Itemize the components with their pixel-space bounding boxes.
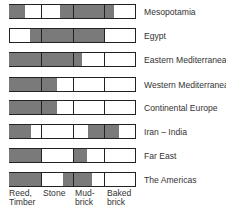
- shaded-segment: [9, 78, 57, 91]
- material-bar-row: [9, 124, 136, 139]
- shaded-segment: [60, 5, 114, 18]
- column-divider: [41, 173, 42, 186]
- shaded-segment: [9, 149, 41, 162]
- column-divider: [73, 5, 74, 18]
- column-divider: [41, 5, 42, 18]
- column-divider: [73, 53, 74, 66]
- material-bar-row: [9, 77, 136, 92]
- column-label-baked-brick: Baked brick: [107, 189, 131, 207]
- column-label-line: Stone: [43, 189, 65, 198]
- column-divider: [41, 78, 42, 91]
- shaded-segment: [9, 5, 25, 18]
- column-label-stone: Stone: [43, 189, 65, 198]
- region-label: Continental Europe: [144, 103, 218, 113]
- column-label-line: brick: [107, 198, 131, 207]
- region-label: Western Mediterranean: [144, 80, 226, 90]
- column-divider: [73, 29, 74, 42]
- column-divider: [104, 101, 105, 114]
- column-label-reed-timber: Reed, Timber: [9, 189, 35, 207]
- region-label: The Americas: [144, 175, 197, 185]
- column-divider: [41, 53, 42, 66]
- shaded-segment: [9, 173, 41, 186]
- material-bar-row: [9, 4, 136, 19]
- column-divider: [104, 29, 105, 42]
- column-divider: [41, 125, 42, 138]
- column-divider: [41, 101, 42, 114]
- column-divider: [73, 101, 74, 114]
- region-label: Eastern Mediterranean: [144, 55, 226, 65]
- column-divider: [104, 53, 105, 66]
- material-bar-row: [9, 172, 136, 187]
- region-label: Iran – India: [144, 127, 187, 137]
- column-divider: [104, 149, 105, 162]
- column-divider: [104, 78, 105, 91]
- column-divider: [73, 149, 74, 162]
- shaded-segment: [63, 173, 92, 186]
- column-label-line: Timber: [9, 198, 35, 207]
- material-bar-row: [9, 100, 136, 115]
- material-bar-row: [9, 52, 136, 67]
- column-label-line: brick: [75, 198, 95, 207]
- shaded-segment: [9, 125, 31, 138]
- column-label-mud-brick: Mud- brick: [75, 189, 95, 207]
- material-bar-row: [9, 28, 136, 43]
- shaded-segment: [9, 53, 82, 66]
- region-label: Egypt: [144, 31, 166, 41]
- region-label: Mesopotamia: [144, 7, 196, 17]
- material-bar-row: [9, 148, 136, 163]
- column-divider: [41, 149, 42, 162]
- column-divider: [104, 5, 105, 18]
- shaded-segment: [9, 101, 57, 114]
- column-divider: [104, 125, 105, 138]
- column-divider: [73, 173, 74, 186]
- shaded-segment: [73, 149, 87, 162]
- column-divider: [73, 125, 74, 138]
- column-divider: [104, 173, 105, 186]
- region-label: Far East: [144, 151, 176, 161]
- column-divider: [41, 29, 42, 42]
- column-divider: [73, 78, 74, 91]
